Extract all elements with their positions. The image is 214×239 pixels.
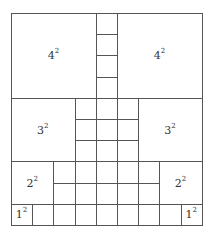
- sq3-right-label: 32: [164, 123, 175, 137]
- label-exponent: 2: [44, 122, 48, 130]
- unit-cell: [96, 34, 118, 56]
- unit-cell: [32, 204, 54, 226]
- label-exponent: 2: [171, 122, 175, 130]
- unit-cell: [96, 55, 118, 77]
- label-exponent: 2: [23, 207, 27, 215]
- unit-cell: [138, 183, 160, 205]
- unit-cell: [75, 183, 97, 205]
- unit-cell: [117, 98, 139, 120]
- label-base: 3: [37, 123, 44, 136]
- sq2-left-label: 22: [26, 176, 37, 190]
- sq2-right-label: 22: [175, 176, 186, 190]
- label-base: 1: [185, 208, 192, 221]
- sq1-left-label: 12: [16, 208, 27, 222]
- label-base: 4: [48, 49, 55, 62]
- unit-cell: [159, 204, 181, 226]
- unit-cell: [53, 183, 75, 205]
- label-base: 2: [175, 176, 182, 189]
- unit-cell: [117, 140, 139, 162]
- sum-of-squares-diagram: 4242323222221212: [11, 13, 203, 224]
- label-exponent: 2: [161, 48, 165, 56]
- label-base: 1: [16, 208, 23, 221]
- unit-cell: [117, 204, 139, 226]
- unit-cell: [117, 183, 139, 205]
- sq4-left-label: 42: [48, 49, 59, 63]
- sq4-right-label: 42: [154, 49, 165, 63]
- unit-cell: [138, 161, 160, 183]
- unit-cell: [96, 77, 118, 99]
- unit-cell: [96, 204, 118, 226]
- label-exponent: 2: [192, 207, 196, 215]
- unit-cell: [96, 183, 118, 205]
- unit-cell: [53, 161, 75, 183]
- label-base: 4: [154, 49, 161, 62]
- label-exponent: 2: [33, 175, 37, 183]
- unit-cell: [96, 119, 118, 141]
- sq3-left-label: 32: [37, 123, 48, 137]
- label-base: 2: [26, 176, 33, 189]
- unit-cell: [75, 204, 97, 226]
- unit-cell: [75, 98, 97, 120]
- unit-cell: [75, 119, 97, 141]
- unit-cell: [75, 161, 97, 183]
- unit-cell: [138, 204, 160, 226]
- unit-cell: [96, 98, 118, 120]
- label-base: 3: [164, 123, 171, 136]
- unit-cell: [117, 161, 139, 183]
- label-exponent: 2: [55, 48, 59, 56]
- unit-cell: [96, 13, 118, 35]
- sq1-right-label: 12: [185, 208, 196, 222]
- unit-cell: [96, 161, 118, 183]
- unit-cell: [96, 140, 118, 162]
- unit-cell: [75, 140, 97, 162]
- unit-cell: [117, 119, 139, 141]
- unit-cell: [53, 204, 75, 226]
- label-exponent: 2: [182, 175, 186, 183]
